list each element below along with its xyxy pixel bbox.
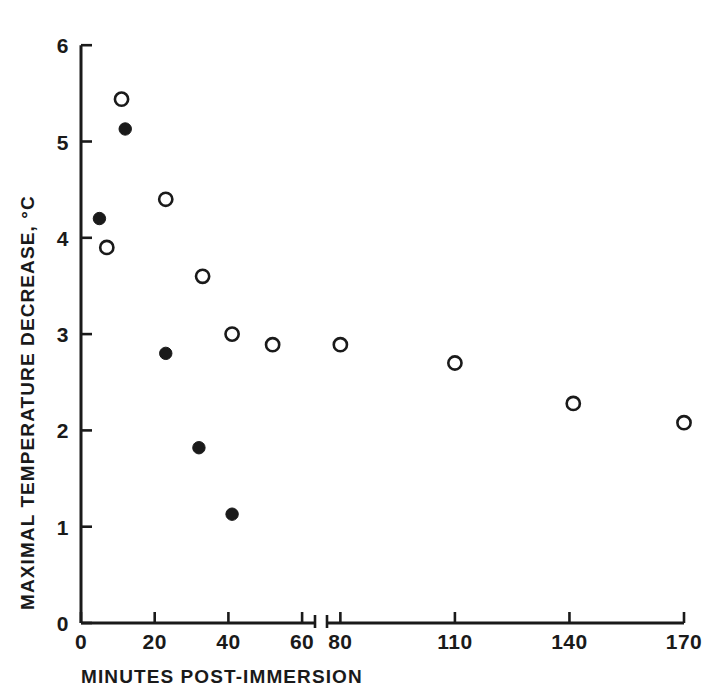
x-tick-label-20: 20 <box>143 630 167 653</box>
x-tick-label-60: 60 <box>290 630 314 653</box>
filled-circle-marker <box>93 212 105 224</box>
y-tick-label-2: 2 <box>57 419 69 442</box>
x-tick-label-170: 170 <box>666 630 703 653</box>
y-tick-label-1: 1 <box>57 516 69 539</box>
series-open-circles <box>100 93 690 430</box>
x-tick-label-80: 80 <box>328 630 352 653</box>
x-tick-label-40: 40 <box>216 630 240 653</box>
open-circle-marker <box>266 338 279 351</box>
tick-labels-group: 0204060801101401700123456 <box>57 34 702 653</box>
x-tick-label-140: 140 <box>551 630 588 653</box>
data-points-group <box>93 93 690 521</box>
open-circle-marker <box>567 397 580 410</box>
open-circle-marker <box>100 241 113 254</box>
open-circle-marker <box>448 356 461 369</box>
filled-circle-marker <box>160 347 172 359</box>
open-circle-marker <box>334 338 347 351</box>
series-filled-circles <box>93 123 238 521</box>
axes-group <box>81 45 684 628</box>
y-tick-label-5: 5 <box>57 131 69 154</box>
open-circle-marker <box>677 416 690 429</box>
y-tick-label-6: 6 <box>57 34 69 57</box>
y-tick-label-3: 3 <box>57 323 69 346</box>
y-axis-title: MAXIMAL TEMPERATURE DECREASE, °C <box>17 195 38 610</box>
y-tick-label-4: 4 <box>57 227 69 250</box>
open-circle-marker <box>196 270 209 283</box>
open-circle-marker <box>225 328 238 341</box>
x-tick-label-0: 0 <box>75 630 87 653</box>
filled-circle-marker <box>226 508 238 520</box>
plot-canvas: 0204060801101401700123456 MINUTES POST-I… <box>0 0 727 697</box>
open-circle-marker <box>115 93 128 106</box>
open-circle-marker <box>159 193 172 206</box>
y-tick-label-0: 0 <box>57 612 69 635</box>
scatter-chart-figure: 0204060801101401700123456 MINUTES POST-I… <box>0 0 727 697</box>
ticks-group <box>81 45 684 623</box>
x-axis-title: MINUTES POST-IMMERSION <box>81 666 363 687</box>
filled-circle-marker <box>193 442 205 454</box>
filled-circle-marker <box>119 123 131 135</box>
x-tick-label-110: 110 <box>437 630 472 653</box>
